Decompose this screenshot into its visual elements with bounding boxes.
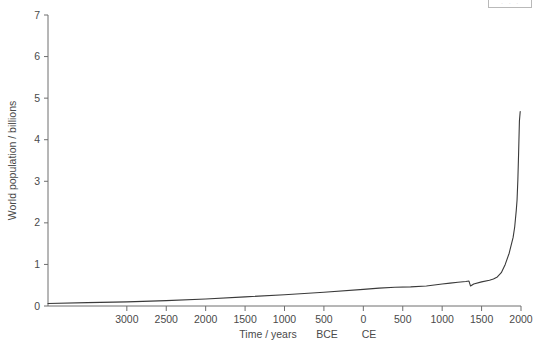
y-axis-ticks: 01234567	[34, 9, 48, 312]
plot-area	[48, 111, 520, 303]
x-tick-label: 500	[394, 313, 412, 325]
y-tick-label: 7	[34, 9, 40, 21]
y-tick-label: 5	[34, 92, 40, 104]
x-axis-title: Time / yearsBCECE	[239, 328, 376, 340]
x-axis-title-part: BCE	[316, 328, 338, 340]
y-tick-label: 0	[34, 300, 40, 312]
x-axis: 300025002000150010005000500100015002000 …	[48, 306, 533, 340]
chart-svg: 01234567 World population / billions 300…	[0, 0, 540, 355]
x-tick-label: 500	[315, 313, 333, 325]
x-tick-label: 3000	[115, 313, 139, 325]
cropped-legend-box: · · ·	[488, 0, 532, 8]
x-tick-label: 1000	[430, 313, 454, 325]
x-tick-label: 2000	[194, 313, 218, 325]
world-population-line	[48, 111, 520, 303]
y-tick-label: 3	[34, 175, 40, 187]
x-axis-ticks: 300025002000150010005000500100015002000	[115, 306, 533, 325]
x-tick-label: 0	[360, 313, 366, 325]
population-chart-figure: · · · 01234567 World population / billio…	[0, 0, 540, 355]
x-axis-title-part: Time / years	[239, 328, 296, 340]
x-tick-label: 2000	[509, 313, 533, 325]
x-tick-label: 1000	[273, 313, 297, 325]
x-tick-label: 1500	[470, 313, 494, 325]
y-tick-label: 4	[34, 133, 40, 145]
y-tick-label: 6	[34, 50, 40, 62]
y-axis-title: World population / billions	[6, 101, 18, 220]
legend-placeholder-dots: · · ·	[501, 0, 520, 6]
y-axis: 01234567 World population / billions	[6, 9, 48, 312]
y-tick-label: 2	[34, 216, 40, 228]
y-tick-label: 1	[34, 258, 40, 270]
x-tick-label: 2500	[155, 313, 179, 325]
x-axis-title-part: CE	[362, 328, 377, 340]
x-tick-label: 1500	[233, 313, 257, 325]
